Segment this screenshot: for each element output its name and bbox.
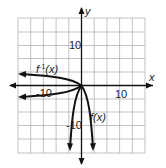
f-inverse-label: f-1(x)	[36, 63, 58, 75]
x-tick-10: 10	[115, 88, 127, 100]
y-axis-arrow-down-icon	[79, 158, 85, 165]
x-tick-neg10: -10	[36, 87, 52, 99]
x-axis-label: x	[148, 71, 155, 83]
y-tick-10: 10	[69, 39, 81, 51]
f-label: f(x)	[90, 111, 106, 123]
x-axis-arrow-right-icon	[146, 83, 153, 89]
y-axis-label: y	[84, 5, 92, 17]
coordinate-plane: y x 10 10 -10 -10 f(x) f-1(x)	[0, 0, 166, 168]
f-left-arrow-icon	[67, 143, 73, 151]
f-right-arrow-icon	[90, 143, 96, 151]
x-axis-arrow-left-icon	[9, 83, 16, 89]
y-tick-neg10: -10	[66, 119, 82, 131]
y-axis-arrow-up-icon	[79, 7, 85, 14]
